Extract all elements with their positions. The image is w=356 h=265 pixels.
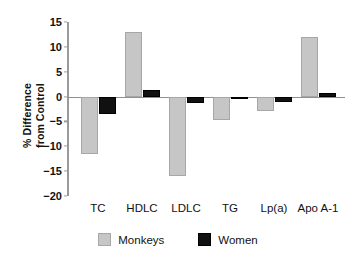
legend-label: Women — [218, 234, 257, 246]
plot-area: 151050−5−10−15−20 TCHDLCLDLCTGLp(a)Apo A… — [67, 22, 345, 196]
legend-label: Monkeys — [118, 234, 164, 246]
bar-monkeys-tg — [213, 97, 230, 120]
y-tick-label: −5 — [28, 116, 62, 127]
bar-monkeys-lp-a- — [257, 97, 274, 112]
legend-swatch-monkeys — [98, 233, 111, 246]
x-tick-label: LDLC — [171, 202, 200, 214]
y-tick-label: −20 — [28, 191, 62, 202]
bar-monkeys-hdlc — [125, 32, 142, 97]
bar-monkeys-tc — [81, 97, 98, 154]
y-tick-label: −10 — [28, 141, 62, 152]
y-tick-mark — [64, 171, 67, 172]
y-tick-label: 0 — [28, 91, 62, 102]
y-tick-mark — [64, 21, 67, 22]
x-tick-label: HDLC — [126, 202, 157, 214]
y-tick-label: −15 — [28, 166, 62, 177]
y-tick-label: 5 — [28, 66, 62, 77]
y-tick-mark — [64, 96, 67, 97]
x-tick-label: TG — [222, 202, 238, 214]
y-axis-spine — [67, 22, 69, 196]
x-tick-label: Lp(a) — [261, 202, 288, 214]
y-tick-mark — [64, 71, 67, 72]
x-tick-label: TC — [90, 202, 105, 214]
bar-monkeys-apo-a-1 — [301, 37, 318, 97]
bar-women-tg — [231, 97, 248, 99]
bar-women-ldlc — [187, 97, 204, 103]
chart-legend: MonkeysWomen — [0, 233, 356, 246]
bar-women-apo-a-1 — [319, 93, 336, 97]
x-tick-label: Apo A-1 — [298, 202, 339, 214]
bar-women-tc — [99, 97, 116, 114]
y-tick-label: 15 — [28, 17, 62, 28]
y-tick-mark — [64, 46, 67, 47]
bar-women-hdlc — [143, 90, 160, 96]
y-tick-label: 10 — [28, 41, 62, 52]
legend-entry: Monkeys — [98, 233, 164, 246]
chart-figure: % Difference from Control 151050−5−10−15… — [0, 0, 356, 265]
y-tick-mark — [64, 195, 67, 196]
y-tick-mark — [64, 121, 67, 122]
bar-women-lp-a- — [275, 97, 292, 102]
legend-entry: Women — [198, 233, 257, 246]
y-tick-mark — [64, 146, 67, 147]
legend-swatch-women — [198, 233, 211, 246]
bar-monkeys-ldlc — [169, 97, 186, 177]
